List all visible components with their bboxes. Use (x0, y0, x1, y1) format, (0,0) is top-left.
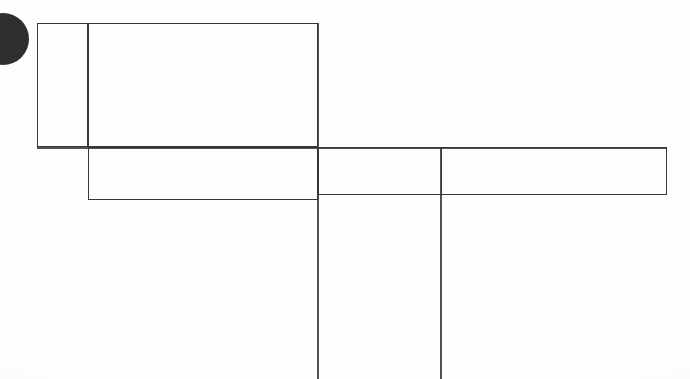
ink-layer (0, 0, 690, 379)
drawing-canvas (0, 0, 690, 379)
upper-left-small-rectangle (37, 23, 88, 147)
long-vertical-stroke-right (440, 147, 442, 379)
horizontal-stroke-band-top (37, 147, 667, 149)
middle-left-band-rectangle (88, 147, 318, 200)
middle-right-band-rectangle (441, 147, 667, 195)
punch-mark-circle-icon (0, 13, 29, 65)
upper-large-rectangle (88, 23, 318, 147)
middle-center-band-rectangle (318, 147, 442, 195)
long-vertical-stroke-left (317, 23, 319, 379)
